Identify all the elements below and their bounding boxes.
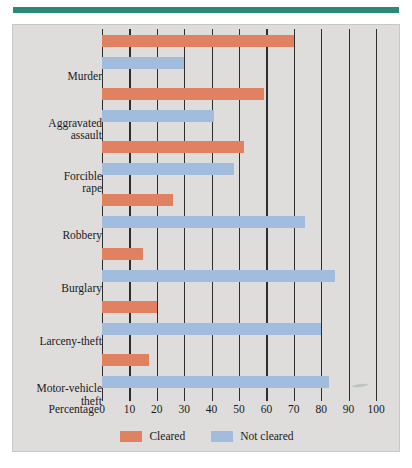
chart-panel: MurderAggravatedassaultForciblerapeRobbe… xyxy=(12,24,400,452)
bar-group xyxy=(102,29,376,82)
category-label-line: Burglary xyxy=(16,282,102,295)
bar-not-cleared xyxy=(102,376,329,388)
bar-not-cleared xyxy=(102,323,321,335)
bar-group xyxy=(102,348,376,401)
top-rule-decoration xyxy=(13,7,399,13)
category-label-line: Forcible xyxy=(16,170,102,183)
bar-not-cleared xyxy=(102,270,335,282)
figure: MurderAggravatedassaultForciblerapeRobbe… xyxy=(0,0,412,468)
category-label-line: Robbery xyxy=(16,229,102,242)
tick-label-80: 80 xyxy=(315,403,327,415)
category-label: Robbery xyxy=(16,229,102,242)
tick-label-50: 50 xyxy=(233,403,245,415)
legend-label: Not cleared xyxy=(240,430,293,442)
bar-group xyxy=(102,188,376,241)
category-label: Aggravatedassault xyxy=(16,117,102,142)
bar-not-cleared xyxy=(102,216,305,228)
category-label-line: assault xyxy=(16,129,102,142)
axis-title: Percentage xyxy=(23,403,99,415)
bar-cleared xyxy=(102,141,244,153)
gridline-100 xyxy=(376,29,377,401)
tick-label-90: 90 xyxy=(343,403,355,415)
bar-cleared xyxy=(102,194,173,206)
bar-group xyxy=(102,135,376,188)
bar-not-cleared xyxy=(102,57,184,69)
bar-group xyxy=(102,82,376,135)
bar-cleared xyxy=(102,354,149,366)
tick-label-60: 60 xyxy=(261,403,273,415)
bar-cleared xyxy=(102,88,264,100)
tick-label-10: 10 xyxy=(124,403,136,415)
legend-swatch-cleared xyxy=(120,431,142,442)
bar-not-cleared xyxy=(102,163,234,175)
bar-group xyxy=(102,295,376,348)
category-label-line: Aggravated xyxy=(16,117,102,130)
category-label: Forciblerape xyxy=(16,170,102,195)
tick-label-40: 40 xyxy=(206,403,218,415)
category-label-line: Murder xyxy=(16,70,102,83)
bar-cleared xyxy=(102,301,157,313)
category-label-line: Motor-vehicle xyxy=(16,382,102,395)
plot-area xyxy=(102,29,376,401)
x-axis-tick-labels: 0102030405060708090100 xyxy=(102,401,376,423)
bar-cleared xyxy=(102,35,294,47)
category-label: Burglary xyxy=(16,282,102,295)
tick-label-30: 30 xyxy=(178,403,190,415)
tick-label-100: 100 xyxy=(367,403,384,415)
category-label-line: rape xyxy=(16,182,102,195)
tick-label-0: 0 xyxy=(99,403,105,415)
tick-label-70: 70 xyxy=(288,403,300,415)
legend-item-cleared: Cleared xyxy=(120,430,185,442)
legend-item-not_cleared: Not cleared xyxy=(211,430,293,442)
bar-rows xyxy=(102,29,376,401)
legend: ClearedNot cleared xyxy=(13,430,401,442)
category-labels: MurderAggravatedassaultForciblerapeRobbe… xyxy=(13,53,102,425)
bar-cleared xyxy=(102,248,143,260)
tick-label-20: 20 xyxy=(151,403,163,415)
category-label: Murder xyxy=(16,70,102,83)
category-label-line: Larceny-theft xyxy=(16,335,102,348)
legend-swatch-not_cleared xyxy=(211,431,233,442)
bar-group xyxy=(102,242,376,295)
bar-not-cleared xyxy=(102,110,214,122)
category-label: Larceny-theft xyxy=(16,335,102,348)
legend-label: Cleared xyxy=(149,430,185,442)
